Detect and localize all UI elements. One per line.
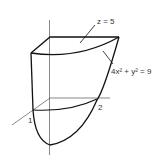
label-y-tick: 2 bbox=[98, 103, 103, 112]
label-x-tick: 1 bbox=[28, 116, 33, 125]
left-parabola bbox=[33, 110, 50, 145]
label-surface: 4x² + y² = 9 bbox=[111, 67, 152, 76]
top-face-front-curve bbox=[31, 37, 119, 55]
z5-leader bbox=[80, 25, 95, 43]
right-parabola bbox=[50, 37, 119, 145]
middle-slice-curve bbox=[33, 99, 97, 110]
left-edge bbox=[31, 53, 33, 110]
top-face-back-edges bbox=[31, 37, 119, 53]
surface-leader bbox=[103, 51, 113, 64]
label-z5: z = 5 bbox=[97, 17, 115, 26]
solid-diagram: z = 5 4x² + y² = 9 1 2 bbox=[0, 0, 164, 166]
